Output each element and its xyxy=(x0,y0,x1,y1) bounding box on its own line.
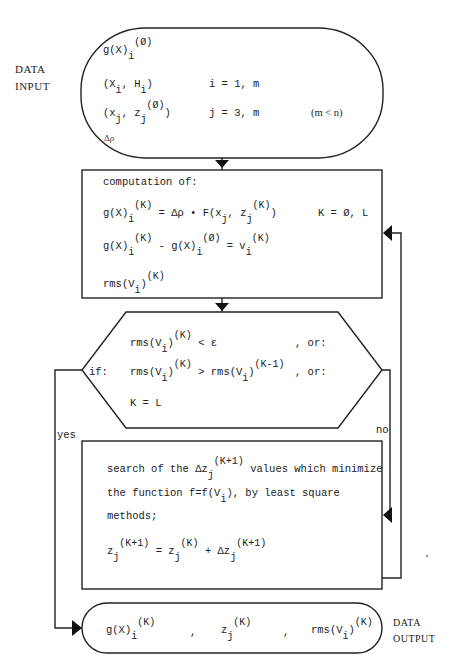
computation-eq1: g(X)i(K) = Δρ • F(xj, zj(K)) xyxy=(103,207,277,220)
decision-cond2-or: , or: xyxy=(295,366,327,378)
input-range-i: i = 1, m xyxy=(209,78,259,90)
arrow-down-2 xyxy=(215,303,229,311)
no-label: no xyxy=(376,424,389,436)
flowchart-lines xyxy=(0,0,450,665)
input-delta-rho: Δρ xyxy=(104,132,114,144)
input-line-gx: g(X)i(Ø) xyxy=(103,44,152,57)
input-range-j: j = 3, m xyxy=(209,107,259,119)
arrow-right-yes xyxy=(72,620,82,636)
input-line-xh: (Xi, Hi) xyxy=(103,78,153,91)
data-output-label: DATA OUTPUT xyxy=(393,617,435,645)
search-line1: search of the Δzj(K+1) values which mini… xyxy=(107,463,383,476)
arrow-left-no xyxy=(383,507,392,523)
search-line3: methods; xyxy=(107,510,157,522)
data-input-label: DATA INPUT xyxy=(15,63,50,92)
input-note: (m < n) xyxy=(311,107,343,119)
arrow-left-loop xyxy=(383,225,392,241)
output-gx: g(X)i(K) xyxy=(106,624,155,637)
decision-cond2: rms(Vi)(K) > rms(Vi)(K-1) xyxy=(130,366,285,379)
decision-cond3: K = L xyxy=(130,397,162,409)
output-sep-1: , xyxy=(190,626,196,638)
decision-cond1-or: , or: xyxy=(295,337,327,349)
computation-range: K = Ø, L xyxy=(318,207,368,219)
computation-eq3: rms(Vi)(K) xyxy=(103,278,165,291)
computation-title: computation of: xyxy=(103,176,198,188)
decision-if: if: xyxy=(89,366,108,378)
computation-eq2: g(X)i(K) - g(X)i(Ø) = vi(K) xyxy=(103,240,270,253)
search-update-eq: zj(K+1) = zj(K) + Δzj(K+1) xyxy=(107,545,266,558)
yes-label: yes xyxy=(57,429,76,441)
arrow-down-1 xyxy=(215,160,229,168)
input-line-xz: (xj, zj(Ø)) xyxy=(103,107,171,120)
output-sep-2: , xyxy=(283,626,289,638)
output-z: zj(K) xyxy=(221,624,251,637)
output-rms: rms(Vi)(K) xyxy=(311,624,373,637)
decision-cond1: rms(Vi)(K) < ε xyxy=(130,337,217,350)
search-line2: the function f=f(Vi), by least square xyxy=(107,487,340,500)
